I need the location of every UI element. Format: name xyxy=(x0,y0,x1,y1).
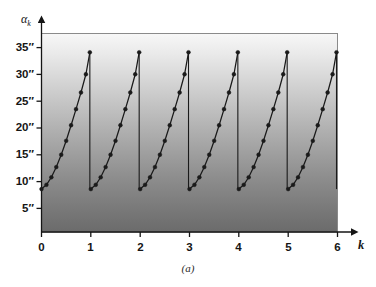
data-point-marker xyxy=(311,139,315,143)
data-point-marker xyxy=(222,107,226,111)
data-point-marker xyxy=(267,123,271,127)
data-point-marker xyxy=(187,50,191,54)
x-tick-label-2: 2 xyxy=(130,241,151,253)
data-point-marker xyxy=(99,175,103,179)
y-axis-title: αk xyxy=(21,12,31,28)
y-tick-label-25: 25″ xyxy=(2,95,34,107)
data-point-marker xyxy=(109,153,113,157)
data-point-marker xyxy=(316,123,320,127)
data-point-marker xyxy=(212,139,216,143)
data-point-marker xyxy=(137,50,141,54)
plot-area-background xyxy=(42,34,338,233)
data-point-marker xyxy=(54,165,58,169)
data-point-marker xyxy=(257,153,261,157)
data-point-marker xyxy=(158,153,162,157)
data-point-marker xyxy=(227,91,231,95)
x-tick-label-3: 3 xyxy=(179,241,200,253)
data-point-marker xyxy=(114,139,118,143)
data-point-marker xyxy=(128,91,132,95)
data-point-marker xyxy=(236,50,240,54)
y-tick-label-35: 35″ xyxy=(2,41,34,53)
data-point-marker xyxy=(242,183,246,187)
data-point-marker xyxy=(296,175,300,179)
figure-caption: (a) xyxy=(0,262,376,274)
y-tick-label-15: 15″ xyxy=(2,148,34,160)
data-point-marker xyxy=(64,139,68,143)
data-point-marker xyxy=(138,187,142,191)
y-tick-label-30: 30″ xyxy=(2,68,34,80)
data-point-marker xyxy=(133,72,137,76)
data-point-marker xyxy=(89,187,93,191)
data-point-marker xyxy=(331,72,335,76)
data-point-marker xyxy=(84,72,88,76)
data-point-marker xyxy=(49,175,53,179)
data-point-marker xyxy=(285,50,289,54)
data-point-marker xyxy=(286,187,290,191)
data-point-marker xyxy=(202,165,206,169)
data-point-marker xyxy=(59,153,63,157)
data-point-marker xyxy=(276,91,280,95)
data-point-marker xyxy=(45,183,49,187)
data-point-marker xyxy=(104,165,108,169)
data-point-marker xyxy=(188,187,192,191)
data-point-marker xyxy=(271,107,275,111)
data-point-marker xyxy=(153,165,157,169)
data-point-marker xyxy=(94,183,98,187)
y-tick-label-20: 20″ xyxy=(2,121,34,133)
data-point-marker xyxy=(247,175,251,179)
data-point-marker xyxy=(40,187,44,191)
data-point-marker xyxy=(197,175,201,179)
data-point-marker xyxy=(321,107,325,111)
data-point-marker xyxy=(301,165,305,169)
data-point-marker xyxy=(143,183,147,187)
data-point-marker xyxy=(148,175,152,179)
data-point-marker xyxy=(74,107,78,111)
data-point-marker xyxy=(178,91,182,95)
data-point-marker xyxy=(163,139,167,143)
data-point-marker xyxy=(262,139,266,143)
data-point-marker xyxy=(217,123,221,127)
y-tick-label-5: 5″ xyxy=(2,202,34,214)
data-point-marker xyxy=(119,123,123,127)
data-point-marker xyxy=(335,50,339,54)
data-point-marker xyxy=(173,107,177,111)
data-point-marker xyxy=(183,72,187,76)
x-tick-label-1: 1 xyxy=(80,241,101,253)
data-point-marker xyxy=(232,72,236,76)
data-point-marker xyxy=(207,153,211,157)
data-point-marker xyxy=(168,123,172,127)
x-tick-label-6: 6 xyxy=(327,241,348,253)
data-point-marker xyxy=(252,165,256,169)
data-point-marker xyxy=(69,123,73,127)
x-axis-title: k xyxy=(358,238,364,253)
data-point-marker xyxy=(291,183,295,187)
data-point-marker xyxy=(79,91,83,95)
y-tick-label-10: 10″ xyxy=(2,175,34,187)
x-tick-label-5: 5 xyxy=(278,241,299,253)
y-axis-subscript: k xyxy=(27,19,31,28)
data-point-marker xyxy=(281,72,285,76)
data-point-marker xyxy=(237,187,241,191)
x-tick-label-4: 4 xyxy=(228,241,249,253)
y-axis-ticks xyxy=(37,48,42,209)
data-point-marker xyxy=(306,153,310,157)
x-axis-ticks xyxy=(42,232,338,237)
data-point-marker xyxy=(88,50,92,54)
data-point-marker xyxy=(326,91,330,95)
data-point-marker xyxy=(123,107,127,111)
x-tick-label-0: 0 xyxy=(31,241,52,253)
data-point-marker xyxy=(193,183,197,187)
